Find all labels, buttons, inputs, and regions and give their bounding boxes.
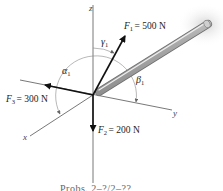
beta-label: β1	[135, 74, 144, 86]
f2-label: F2= 200 N	[97, 125, 140, 136]
x-axis-label: x	[22, 132, 27, 142]
f3-arrow	[45, 85, 93, 95]
f1-label: F1= 500 N	[123, 21, 166, 32]
z-axis-label: z	[88, 3, 93, 13]
y-axis-label: y	[172, 108, 177, 118]
f3-label: F3= 300 N	[5, 94, 48, 105]
force-diagram: z y x F1= 500 N F3= 300 N	[0, 0, 223, 191]
figure-caption: Probs. 2–?/2–??	[60, 183, 131, 191]
gamma-arc	[93, 48, 114, 53]
gamma-label: γ1	[101, 36, 108, 48]
angle-arcs	[56, 48, 137, 114]
alpha-label: α1	[62, 65, 71, 77]
